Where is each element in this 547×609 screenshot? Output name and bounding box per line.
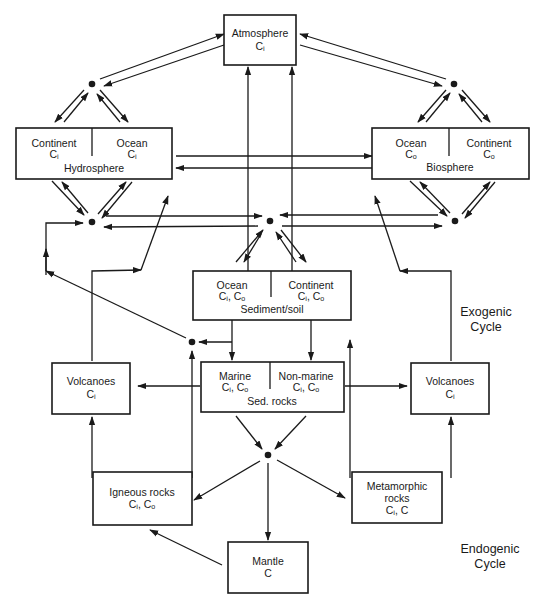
exogenic-cycle-label-line2: Cycle (470, 320, 501, 334)
box-metamorphic-rocks: Metamorphic rocks Cᵢ, C (352, 472, 442, 523)
sedrocks-marine-carbon: Cᵢ, Cₒ (222, 381, 249, 393)
arrows-atmosphere-top-left-hub (100, 34, 224, 86)
carbon-cycle-diagram: Atmosphere Cᵢ Continent Cᵢ Ocean Cᵢ Hydr… (0, 0, 547, 609)
sediment-ocean-carbon: Cᵢ, Cₒ (219, 290, 246, 302)
box-biosphere: Ocean Cₒ Continent Cₒ Biosphere (372, 128, 529, 179)
igneous-rocks-carbon: Cᵢ, Cₒ (129, 498, 156, 510)
arrow-mantle-to-igneous (150, 530, 222, 565)
arrows-hydrosphere-mid-left-hub (52, 181, 132, 218)
arrows-left-volcano-path (46, 196, 186, 361)
biosphere-title: Biosphere (426, 161, 473, 173)
hub-dot-top-left (89, 81, 96, 88)
box-atmosphere: Atmosphere Cᵢ (224, 15, 296, 65)
box-sed-rocks: Marine Cᵢ, Cₒ Non-marine Cᵢ, Cₒ Sed. roc… (201, 362, 344, 412)
atmosphere-carbon: Cᵢ (255, 40, 265, 52)
arrows-atmosphere-top-right-hub (300, 34, 446, 86)
arrow-nonmarine-to-lower-hub (275, 416, 306, 449)
arrow-lower-hub-to-igneous (194, 461, 260, 500)
hub-dot-sed-left (189, 339, 196, 346)
mantle-carbon: C (264, 567, 272, 579)
hub-dot-lower (265, 452, 272, 459)
hub-dot-mid-right (452, 218, 459, 225)
arrows-top-right-hub-biosphere (418, 90, 490, 122)
arrow-marine-to-lower-hub (236, 416, 262, 449)
sediment-soil-title: Sediment/soil (240, 303, 303, 315)
sediment-continent-carbon: Cᵢ, Cₒ (298, 290, 325, 302)
metamorphic-title-line1: Metamorphic (367, 480, 428, 492)
exogenic-cycle-label-line1: Exogenic (460, 305, 511, 319)
arrows-hydrosphere-biosphere (176, 156, 372, 168)
biosphere-ocean-carbon: Cₒ (405, 148, 417, 160)
hub-dot-mid-left (89, 219, 96, 226)
atmosphere-title: Atmosphere (232, 27, 289, 39)
volcanoes-left-carbon: Cᵢ (86, 388, 96, 400)
hydrosphere-continent-carbon: Cᵢ (49, 148, 59, 160)
hub-dot-top-right (451, 81, 458, 88)
hydrosphere-title: Hydrosphere (64, 162, 124, 174)
arrows-right-volcano-path (375, 196, 451, 361)
box-mantle: Mantle C (228, 542, 308, 593)
igneous-rocks-title: Igneous rocks (109, 486, 174, 498)
hub-dot-center (267, 218, 274, 225)
volcanoes-left-title: Volcanoes (67, 375, 115, 387)
box-volcanoes-right: Volcanoes Cᵢ (411, 363, 489, 414)
metamorphic-carbon: Cᵢ, C (386, 504, 409, 516)
volcanoes-right-carbon: Cᵢ (445, 388, 455, 400)
volcanoes-right-title: Volcanoes (426, 375, 474, 387)
box-sediment-soil: Ocean Cᵢ, Cₒ Continent Cᵢ, Cₒ Sediment/s… (193, 271, 351, 320)
box-hydrosphere: Continent Cᵢ Ocean Cᵢ Hydrosphere (16, 128, 172, 179)
arrows-top-left-hub-hydrosphere (55, 90, 128, 122)
arrows-center-hub-sediment (236, 230, 306, 262)
mantle-title: Mantle (252, 555, 284, 567)
sedrocks-nonmarine-carbon: Cᵢ, Cₒ (293, 381, 320, 393)
sed-rocks-title: Sed. rocks (247, 395, 297, 407)
endogenic-cycle-label-line2: Cycle (474, 557, 505, 571)
box-volcanoes-left: Volcanoes Cᵢ (52, 363, 130, 414)
box-igneous-rocks: Igneous rocks Cᵢ, Cₒ (93, 472, 192, 525)
hydrosphere-ocean-carbon: Cᵢ (127, 148, 137, 160)
biosphere-continent-carbon: Cₒ (483, 148, 495, 160)
arrow-lower-hub-to-metamorphic (277, 460, 345, 498)
arrows-biosphere-mid-right-hub (410, 181, 495, 218)
endogenic-cycle-label-line1: Endogenic (460, 542, 519, 556)
metamorphic-title-line2: rocks (384, 492, 409, 504)
